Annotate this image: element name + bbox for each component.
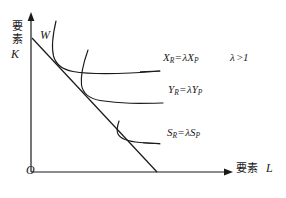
isoquant-label-s-rhs-sub: P [196,131,201,140]
x-axis-caption: 要素 [236,163,258,174]
isoquant-curve-s [117,121,160,144]
budget-line-endpoint-label: W [40,29,50,41]
isoquant-diagram: 要 素 K 要素 L O W XR=λXP YR=λYP SR=λSP λ>1 [0,0,286,198]
isoquant-label-y-rhs-sub: P [198,88,203,97]
x-axis-variable: L [266,162,273,174]
y-axis-variable: K [11,48,19,60]
y-axis-caption-char-1: 要 [10,20,24,33]
budget-line [32,38,157,172]
isoquant-label-x-operator: = [174,51,182,63]
lambda-condition-value: 1 [243,51,249,63]
x-axis [31,169,233,176]
isoquant-label-x-rhs-sub: P [194,56,199,65]
isoquant-curve-x [52,21,160,74]
isoquant-label-s: SR=λSP [167,127,200,139]
isoquant-label-x: XR=λXP [163,52,199,64]
y-axis-caption: 要 素 [10,20,24,46]
isoquant-label-y: YR=λYP [168,84,202,96]
isoquant-label-y-operator: = [179,83,187,95]
lambda-condition: λ>1 [230,52,248,63]
origin-label: O [26,164,35,176]
y-axis-caption-char-2: 素 [10,33,24,46]
isoquant-label-x-lhs: X [163,51,170,63]
y-axis [28,12,35,172]
lambda-condition-operator: > [235,51,243,63]
isoquant-curve-y [81,50,163,103]
